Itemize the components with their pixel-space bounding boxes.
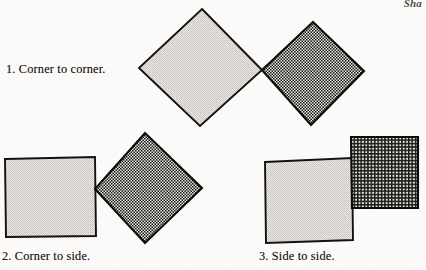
light-square-2	[5, 157, 96, 237]
group-side-to-side	[265, 137, 418, 243]
dark-square-3	[351, 137, 418, 208]
light-square-3	[265, 158, 353, 243]
dark-square-1	[262, 22, 364, 125]
dark-square-2	[95, 133, 202, 243]
group-corner-to-side	[5, 133, 202, 243]
light-square-1	[139, 9, 262, 126]
squares-figure	[0, 0, 426, 270]
caption-corner-to-side: 2. Corner to side.	[2, 249, 90, 264]
group-corner-to-corner	[139, 9, 364, 126]
caption-side-to-side: 3. Side to side.	[259, 249, 335, 264]
figure-page: Sha	[0, 0, 426, 270]
caption-corner-to-corner: 1. Corner to corner.	[6, 62, 106, 77]
